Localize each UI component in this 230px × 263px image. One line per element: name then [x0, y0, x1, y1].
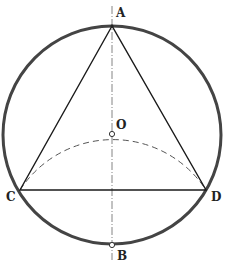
label-a: A [115, 6, 126, 20]
label-b: B [117, 249, 127, 263]
label-c: C [6, 190, 16, 204]
label-d: D [211, 190, 221, 204]
geometry-diagram: A O C D B [0, 0, 230, 263]
construction-arc [20, 140, 206, 190]
inscribed-triangle [20, 26, 206, 190]
point-o-marker [109, 131, 114, 136]
point-b-marker [109, 242, 114, 247]
point-a-marker [111, 25, 114, 28]
label-o: O [116, 118, 126, 132]
